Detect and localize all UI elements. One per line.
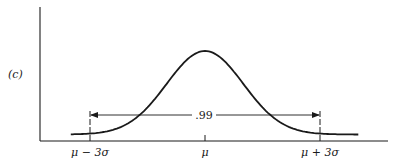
x-tick-label-mu-minus-3sigma: μ − 3σ [71,146,109,159]
panel-label: (c) [8,68,23,81]
normal-density-curve [71,51,359,135]
probability-label: .99 [195,109,213,122]
normal-curve-figure: .99 μ − 3σ μ μ + 3σ (c) [0,0,398,164]
x-tick-label-mu: μ [201,146,208,159]
x-tick-label-mu-plus-3sigma: μ + 3σ [301,146,339,159]
